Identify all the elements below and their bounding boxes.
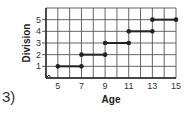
closed-endpoint [126,41,131,46]
y-tick-label: 3 [36,38,41,48]
step-chart: 57911131512345 Age Division [0,0,187,117]
closed-endpoint [103,41,108,46]
closed-endpoint [79,64,84,69]
closed-endpoint [150,17,155,22]
x-tick-label: 7 [79,81,84,91]
closed-endpoint [126,29,131,34]
y-axis-label: Division [21,24,32,63]
x-tick-label: 5 [55,81,60,91]
y-tick-label: 5 [36,15,41,25]
closed-endpoint [150,29,155,34]
x-tick-label: 15 [171,81,181,91]
closed-endpoint [56,64,61,69]
y-tick-label: 4 [36,26,41,36]
x-axis-label: Age [102,94,121,105]
closed-endpoint [103,52,108,57]
x-tick-label: 9 [103,81,108,91]
y-tick-label: 1 [36,61,41,71]
y-tick-label: 2 [36,50,41,60]
x-tick-label: 11 [124,81,133,91]
closed-endpoint [174,17,179,22]
closed-endpoint [79,52,84,57]
x-tick-label: 13 [147,81,157,91]
